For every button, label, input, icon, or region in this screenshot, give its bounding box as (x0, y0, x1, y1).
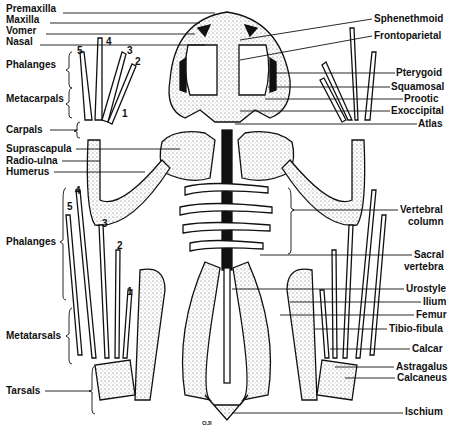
digit-number-foot-2: 2 (117, 240, 123, 251)
label-carpals: Carpals (6, 124, 43, 135)
digit-number-hand-5: 5 (77, 45, 83, 56)
digit-number-foot-3: 3 (102, 218, 108, 229)
label-phalanges-hand: Phalanges (6, 59, 56, 70)
humerus-left (87, 140, 170, 225)
ilium-left (183, 262, 221, 400)
frog-skeleton-diagram: Premaxilla Maxilla Vomer Nasal Phalanges… (0, 0, 452, 433)
digit-number-hand-4: 4 (106, 36, 112, 47)
label-column: column (408, 216, 444, 227)
label-ilium: Ilium (423, 296, 446, 307)
artist-signature: OJI (202, 420, 212, 426)
label-calcaneus: Calcaneus (397, 372, 447, 383)
label-metatarsals: Metatarsals (6, 330, 61, 341)
label-radio-ulna: Radio-ulna (6, 155, 58, 166)
femur-left (135, 269, 165, 400)
label-squamosal: Squamosal (391, 81, 444, 92)
label-tarsals: Tarsals (6, 385, 40, 396)
label-prootic: Prootic (404, 93, 438, 104)
label-femur: Femur (416, 309, 447, 320)
digit-number-foot-5: 5 (67, 201, 73, 212)
digit-number-hand-2: 2 (135, 56, 141, 67)
label-calcar: Calcar (412, 343, 443, 354)
digit-number-foot-4: 4 (75, 185, 81, 196)
label-metacarpals: Metacarpals (6, 93, 64, 104)
skeleton-illustration (0, 0, 452, 433)
label-astragalus: Astragalus (396, 361, 448, 372)
label-pterygoid: Pterygoid (396, 67, 442, 78)
label-humerus: Humerus (6, 166, 49, 177)
label-vertebral: Vertebral (400, 204, 443, 215)
label-vertebra: vertebra (404, 261, 443, 272)
label-nasal: Nasal (6, 36, 33, 47)
ilium-right (233, 262, 271, 400)
digit-number-hand-1: 1 (122, 108, 128, 119)
label-sacral: Sacral (414, 249, 444, 260)
suprascapula-left (160, 132, 215, 181)
label-suprascapula: Suprascapula (6, 143, 72, 154)
label-premaxilla: Premaxilla (6, 3, 56, 14)
label-urostyle: Urostyle (406, 283, 446, 294)
label-exoccipital: Exoccipital (391, 105, 444, 116)
humerus-right (282, 140, 365, 225)
label-frontoparietal: Frontoparietal (374, 30, 441, 41)
label-vomer: Vomer (6, 25, 36, 36)
digit-number-hand-3: 3 (127, 45, 133, 56)
label-ischium: Ischium (405, 406, 443, 417)
label-atlas: Atlas (418, 118, 442, 129)
label-sphenethmoid: Sphenethmoid (374, 13, 443, 24)
label-tibio-fibula: Tibio-fibula (389, 323, 443, 334)
label-maxilla: Maxilla (6, 14, 39, 25)
label-phalanges-foot: Phalanges (6, 236, 56, 247)
digit-number-foot-1: 1 (127, 286, 133, 297)
